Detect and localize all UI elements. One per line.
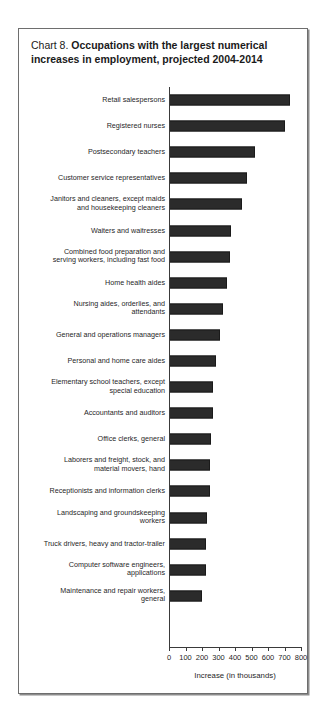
bar-category-label: Maintenance and repair workers, general xyxy=(15,587,165,604)
chart-row: Retail salespersons xyxy=(19,87,307,113)
plot-area: Retail salespersonsRegistered nursesPost… xyxy=(19,87,307,647)
bar-track xyxy=(169,564,301,575)
chart-row: Office clerks, general xyxy=(19,426,307,452)
bar-category-label: Home health aides xyxy=(15,278,165,287)
chart-row: Nursing aides, orderlies, and attendants xyxy=(19,296,307,322)
x-axis-tick xyxy=(268,647,269,651)
bar-category-label: Janitors and cleaners, except maids and … xyxy=(15,196,165,213)
x-axis-tick-label: 300 xyxy=(212,653,225,662)
bar-track xyxy=(169,95,301,106)
x-axis-tick xyxy=(186,647,187,651)
bar-category-label: Retail salespersons xyxy=(15,96,165,105)
bar-category-label: Waiters and waitresses xyxy=(15,226,165,235)
chart-row: General and operations managers xyxy=(19,322,307,348)
x-axis-tick xyxy=(301,647,302,651)
chart-title-text-line1: Occupations with the largest numerical xyxy=(71,39,267,51)
bar-category-label: Office clerks, general xyxy=(15,435,165,444)
bar xyxy=(169,95,290,106)
x-axis-tick-label: 700 xyxy=(278,653,291,662)
bar xyxy=(169,147,255,158)
chart-frame: Chart 8. Occupations with the largest nu… xyxy=(18,28,308,694)
x-axis-tick xyxy=(285,647,286,651)
x-axis-tick-label: 600 xyxy=(262,653,275,662)
x-axis-tick xyxy=(235,647,236,651)
bar-track xyxy=(169,408,301,419)
bar-category-label: Accountants and auditors xyxy=(15,409,165,418)
chart-row: Personal and home care aides xyxy=(19,348,307,374)
chart-title: Chart 8. Occupations with the largest nu… xyxy=(31,39,297,66)
bar xyxy=(169,590,202,601)
chart-title-label: Chart 8. xyxy=(31,39,68,51)
bar xyxy=(169,408,213,419)
bar xyxy=(169,538,206,549)
bar xyxy=(169,251,230,262)
bar xyxy=(169,199,242,210)
chart-row: Laborers and freight, stock, and materia… xyxy=(19,452,307,478)
x-axis-tick xyxy=(219,647,220,651)
x-axis-tick-label: 100 xyxy=(179,653,192,662)
bar-track xyxy=(169,590,301,601)
bar-category-label: Receptionists and information clerks xyxy=(15,487,165,496)
bar-track xyxy=(169,173,301,184)
bar-category-label: Truck drivers, heavy and tractor-trailer xyxy=(15,539,165,548)
bar-track xyxy=(169,225,301,236)
bar xyxy=(169,329,220,340)
bar-category-label: General and operations managers xyxy=(15,331,165,340)
chart-row: Elementary school teachers, except speci… xyxy=(19,374,307,400)
bar xyxy=(169,121,285,132)
chart-row: Combined food preparation and serving wo… xyxy=(19,244,307,270)
bar-track xyxy=(169,303,301,314)
x-axis-tick-label: 0 xyxy=(167,653,171,662)
x-axis-tick xyxy=(202,647,203,651)
bar-category-label: Laborers and freight, stock, and materia… xyxy=(15,457,165,474)
x-axis: 0100200300400500600700800 Increase (in t… xyxy=(19,647,307,693)
bar-track xyxy=(169,512,301,523)
x-axis-tick-label: 400 xyxy=(229,653,242,662)
bar-track xyxy=(169,538,301,549)
bar xyxy=(169,355,216,366)
bar xyxy=(169,303,223,314)
x-axis-title: Increase (in thousands) xyxy=(169,671,301,680)
bar xyxy=(169,460,210,471)
chart-row: Registered nurses xyxy=(19,113,307,139)
bar-track xyxy=(169,355,301,366)
chart-row: Maintenance and repair workers, general xyxy=(19,583,307,609)
bar-track xyxy=(169,329,301,340)
bar-category-label: Computer software engineers, application… xyxy=(15,561,165,578)
bar xyxy=(169,564,206,575)
chart-row: Postsecondary teachers xyxy=(19,139,307,165)
bar-track xyxy=(169,460,301,471)
bar xyxy=(169,382,213,393)
chart-row: Janitors and cleaners, except maids and … xyxy=(19,191,307,217)
bar xyxy=(169,277,227,288)
bar-category-label: Landscaping and groundskeeping workers xyxy=(15,509,165,526)
bar-category-label: Personal and home care aides xyxy=(15,357,165,366)
chart-title-text-line2: increases in employment, projected 2004-… xyxy=(31,53,263,65)
bar-category-label: Nursing aides, orderlies, and attendants xyxy=(15,300,165,317)
bar-track xyxy=(169,251,301,262)
bar-track xyxy=(169,277,301,288)
x-axis-tick-label: 200 xyxy=(196,653,209,662)
bar xyxy=(169,512,207,523)
bar-category-label: Customer service representatives xyxy=(15,174,165,183)
bar-category-label: Combined food preparation and serving wo… xyxy=(15,248,165,265)
chart-row: Truck drivers, heavy and tractor-trailer xyxy=(19,531,307,557)
x-axis-tick xyxy=(169,647,170,651)
chart-row: Accountants and auditors xyxy=(19,400,307,426)
bar-track xyxy=(169,121,301,132)
bar-track xyxy=(169,486,301,497)
bar-track xyxy=(169,382,301,393)
bar-category-label: Postsecondary teachers xyxy=(15,148,165,157)
chart-row: Landscaping and groundskeeping workers xyxy=(19,505,307,531)
bar-category-label: Elementary school teachers, except speci… xyxy=(15,378,165,395)
bar xyxy=(169,486,210,497)
chart-row: Customer service representatives xyxy=(19,165,307,191)
x-axis-tick xyxy=(252,647,253,651)
bar-category-label: Registered nurses xyxy=(15,122,165,131)
bar-track xyxy=(169,199,301,210)
chart-row: Computer software engineers, application… xyxy=(19,557,307,583)
bar-track xyxy=(169,147,301,158)
bar xyxy=(169,173,247,184)
bar xyxy=(169,225,231,236)
x-axis-tick-label: 500 xyxy=(245,653,258,662)
